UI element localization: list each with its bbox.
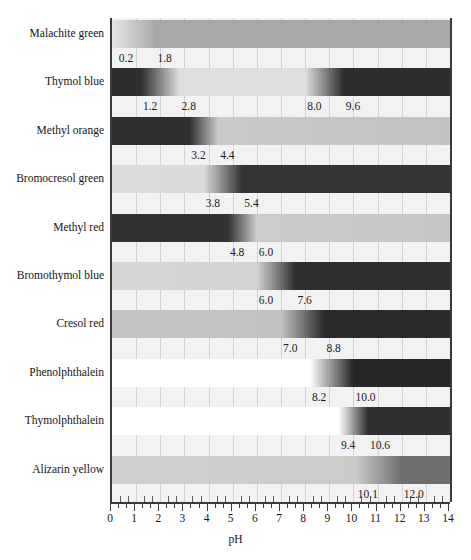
axis-tick-minor <box>319 504 320 508</box>
axis-tick-major <box>207 504 208 511</box>
plot-area: 0.21.81.22.88.09.63.24.43.85.44.86.06.07… <box>110 18 452 502</box>
axis-tick-label: 6 <box>243 512 267 524</box>
axis-tick-label: 13 <box>412 512 436 524</box>
indicator-color-band <box>112 359 450 387</box>
axis-tick-label: 1 <box>122 512 146 524</box>
axis-tick-major <box>400 504 401 511</box>
transition-value-row: 7.08.8 <box>112 338 450 358</box>
axis-tick-minor <box>416 504 417 508</box>
axis-tick-minor <box>239 504 240 508</box>
transition-value-row: 6.07.6 <box>112 290 450 310</box>
transition-ph-label: 4.8 <box>230 244 244 260</box>
transition-ph-label: 1.2 <box>143 98 157 114</box>
transition-ph-label: 6.0 <box>259 292 273 308</box>
transition-ph-label: 8.8 <box>326 340 340 356</box>
axis-tick-major <box>424 504 425 511</box>
indicator-name-alizarin-yellow: Alizarin yellow <box>0 463 104 475</box>
transition-ph-label: 10.0 <box>355 389 375 405</box>
axis-tick-major <box>110 504 111 511</box>
indicator-band-row <box>112 20 450 48</box>
indicator-color-band <box>112 310 450 338</box>
indicator-name-thymolphthalein: Thymolphthalein <box>0 414 104 426</box>
transition-value-row: 1.22.88.09.6 <box>112 96 450 116</box>
transition-ph-label: 9.4 <box>341 437 355 453</box>
indicator-name-methyl-red: Methyl red <box>0 221 104 233</box>
indicator-color-band <box>112 214 450 242</box>
axis-tick-minor <box>215 504 216 508</box>
axis-tick-major <box>303 504 304 511</box>
axis-tick-minor <box>190 504 191 508</box>
transition-value-row: 0.21.8 <box>112 48 450 68</box>
axis-tick-minor <box>150 504 151 508</box>
axis-tick-label: 11 <box>364 512 388 524</box>
axis-tick-major <box>327 504 328 511</box>
axis-tick-minor <box>440 504 441 508</box>
axis-tick-major <box>182 504 183 511</box>
axis-tick-major <box>279 504 280 511</box>
indicator-band-row <box>112 117 450 145</box>
indicator-color-band <box>112 20 450 48</box>
indicator-name-bromocresol-green: Bromocresol green <box>0 172 104 184</box>
transition-ph-label: 12.0 <box>404 486 424 502</box>
axis-tick-major <box>448 504 449 511</box>
axis-tick-label: 8 <box>291 512 315 524</box>
plot-inner: 0.21.81.22.88.09.63.24.43.85.44.86.06.07… <box>112 18 450 502</box>
indicator-color-band <box>112 68 450 96</box>
axis-tick-label: 5 <box>219 512 243 524</box>
indicator-color-band <box>112 456 450 484</box>
axis-tick-minor <box>223 504 224 508</box>
axis-tick-major <box>255 504 256 511</box>
axis-tick-minor <box>166 504 167 508</box>
axis-tick-label: 14 <box>436 512 460 524</box>
axis-tick-major <box>351 504 352 511</box>
axis-tick-minor <box>287 504 288 508</box>
indicator-color-band <box>112 407 450 435</box>
transition-value-row: 9.410.6 <box>112 435 450 455</box>
axis-tick-label: 7 <box>267 512 291 524</box>
transition-ph-label: 10.6 <box>370 437 390 453</box>
axis-tick-minor <box>118 504 119 508</box>
transition-value-row: 8.210.0 <box>112 387 450 407</box>
indicator-band-row <box>112 407 450 435</box>
axis-tick-minor <box>142 504 143 508</box>
axis-tick-major <box>376 504 377 511</box>
indicator-band-row <box>112 214 450 242</box>
transition-ph-label: 1.8 <box>157 50 171 66</box>
transition-ph-label: 6.0 <box>259 244 273 260</box>
axis-tick-minor <box>295 504 296 508</box>
axis-tick-major <box>231 504 232 511</box>
indicator-band-row <box>112 359 450 387</box>
transition-ph-label: 8.0 <box>307 98 321 114</box>
transition-value-row: 4.86.0 <box>112 242 450 262</box>
axis-tick-label: 3 <box>170 512 194 524</box>
axis-tick-label: 12 <box>388 512 412 524</box>
axis-tick-label: 10 <box>339 512 363 524</box>
axis-tick-label: 9 <box>315 512 339 524</box>
transition-ph-label: 5.4 <box>244 195 258 211</box>
axis-tick-minor <box>432 504 433 508</box>
transition-ph-label: 4.4 <box>220 147 234 163</box>
indicator-band-row <box>112 262 450 290</box>
transition-ph-label: 3.2 <box>191 147 205 163</box>
indicator-name-malachite-green: Malachite green <box>0 27 104 39</box>
ph-indicator-chart: 0.21.81.22.88.09.63.24.43.85.44.86.06.07… <box>0 0 471 560</box>
axis-tick-minor <box>408 504 409 508</box>
transition-ph-label: 2.8 <box>182 98 196 114</box>
indicator-band-row <box>112 456 450 484</box>
indicator-name-phenolphthalein: Phenolphthalein <box>0 366 104 378</box>
axis-tick-minor <box>311 504 312 508</box>
indicator-color-band <box>112 165 450 193</box>
transition-ph-label: 0.2 <box>119 50 133 66</box>
axis-tick-minor <box>343 504 344 508</box>
axis-tick-major <box>158 504 159 511</box>
axis-tick-label: 2 <box>146 512 170 524</box>
transition-value-row: 3.24.4 <box>112 145 450 165</box>
axis-tick-minor <box>392 504 393 508</box>
indicator-color-band <box>112 117 450 145</box>
transition-ph-label: 9.6 <box>346 98 360 114</box>
axis-tick-minor <box>335 504 336 508</box>
transition-ph-label: 3.8 <box>206 195 220 211</box>
indicator-band-row <box>112 165 450 193</box>
axis-tick-label: 4 <box>195 512 219 524</box>
indicator-name-cresol-red: Cresol red <box>0 317 104 329</box>
